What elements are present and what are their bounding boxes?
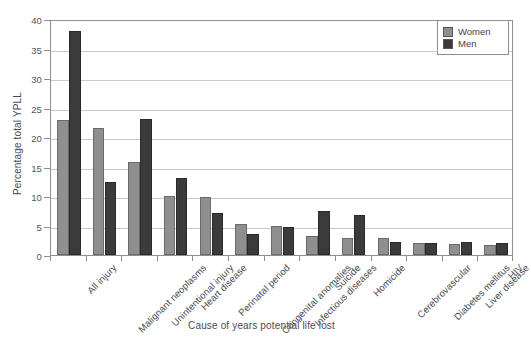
x-axis-tick-mark bbox=[228, 256, 229, 261]
x-axis-tick-mark bbox=[192, 256, 193, 261]
legend-swatch-men-icon bbox=[443, 39, 453, 49]
x-axis-tick-mark bbox=[477, 256, 478, 261]
x-axis-tick-mark bbox=[264, 256, 265, 261]
x-axis-tick-mark bbox=[371, 256, 372, 261]
x-axis-tick-mark bbox=[86, 256, 87, 261]
x-axis-tick-mark bbox=[50, 256, 51, 261]
x-axis-tick-mark bbox=[406, 256, 407, 261]
x-axis-tick-label: All injury bbox=[85, 262, 119, 296]
x-axis-tick-mark bbox=[442, 256, 443, 261]
legend-label-women: Women bbox=[458, 26, 491, 37]
x-axis-title: Cause of years potential life lost bbox=[0, 320, 523, 331]
legend-label-men: Men bbox=[458, 38, 476, 49]
legend-item-men: Men bbox=[443, 38, 503, 49]
x-axis-tick-mark bbox=[121, 256, 122, 261]
x-axis-tick-mark bbox=[299, 256, 300, 261]
x-axis-tick-mark bbox=[335, 256, 336, 261]
x-axis-tick-mark bbox=[157, 256, 158, 261]
x-axis-tick-mark bbox=[512, 256, 513, 261]
legend-swatch-women-icon bbox=[443, 27, 453, 37]
legend-item-women: Women bbox=[443, 26, 503, 37]
legend: Women Men bbox=[437, 20, 509, 55]
